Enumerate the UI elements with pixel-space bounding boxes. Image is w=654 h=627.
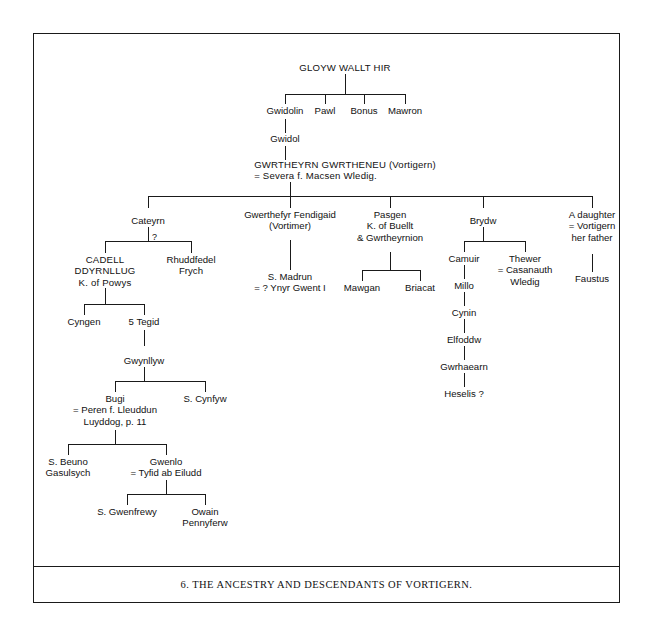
chart-frame (33, 33, 620, 603)
connector-bonus-up (364, 94, 365, 104)
genealogy-chart-page: GLOYW WALLT HIR Gwidolin Pawl Bonus Mawr… (0, 0, 654, 627)
connector-cadell-children-bar (84, 304, 144, 305)
node-rhuddfedel-frych[interactable]: Rhuddfedel Frych (166, 254, 215, 277)
node-5-tegid[interactable]: 5 Tegid (129, 316, 160, 327)
node-bugi[interactable]: Bugi = Peren f. Lleuddun Luyddog, p. 11 (73, 393, 157, 427)
connector-bugi-children-bar (68, 444, 166, 445)
connector-gloyw-children-bar (285, 94, 405, 95)
node-thewer[interactable]: Thewer = Casanauth Wledig (498, 253, 553, 287)
connector-cynfyw-up (205, 381, 206, 392)
connector-gwidolin-up (285, 94, 286, 104)
node-a-daughter[interactable]: A daughter = Vortigern her father (569, 209, 616, 243)
connector-gwidolin-gwidol (285, 119, 286, 133)
node-camuir[interactable]: Camuir (449, 253, 480, 264)
node-pasgen[interactable]: Pasgen K. of Buellt & Gwrtheyrnion (357, 209, 423, 243)
node-s-gwenfrewy[interactable]: S. Gwenfrewy (97, 506, 157, 517)
connector-pasgen-children-bar (362, 270, 420, 271)
node-gwynllyw[interactable]: Gwynllyw (124, 355, 165, 366)
connector-gwenlo-children-bar (127, 494, 205, 495)
connector-cateyrn-down (148, 227, 149, 241)
connector-beuno-up (68, 444, 69, 455)
node-mawgan[interactable]: Mawgan (344, 282, 380, 293)
node-vortigern[interactable]: GWRTHEYRN GWRTHENEU (Vortigern) = Severa… (254, 159, 436, 182)
node-s-beuno-gasulsych[interactable]: S. Beuno Gasulsych (46, 456, 91, 479)
figure-caption: 6. THE ANCESTRY AND DESCENDANTS OF VORTI… (33, 566, 620, 603)
node-cateyrn[interactable]: Cateyrn (131, 215, 165, 226)
connector-brydw-down (483, 227, 484, 241)
node-gloyw-wallt-hir[interactable]: GLOYW WALLT HIR (299, 62, 390, 73)
connector-daughter-faustus (592, 254, 593, 272)
connector-owain-up (205, 494, 206, 505)
node-s-madrun[interactable]: S. Madrun = ? Ynyr Gwent I (254, 271, 326, 294)
connector-pawl-up (325, 94, 326, 104)
connector-rhuddfedel-up (191, 241, 192, 253)
node-s-cynfyw[interactable]: S. Cynfyw (183, 393, 226, 404)
connector-brydw-up (483, 196, 484, 208)
node-heselis[interactable]: Heselis ? (444, 388, 483, 399)
connector-pasgen-up (390, 196, 391, 208)
connector-gwerthefyr-up (290, 196, 291, 208)
connector-cadell-up (105, 241, 106, 253)
node-faustus[interactable]: Faustus (575, 273, 609, 284)
connector-gwerthefyr-madrun (290, 240, 291, 270)
connector-camuir-up (464, 241, 465, 252)
connector-vortigern-children-bar (148, 196, 592, 197)
connector-gwidol-vortigern (285, 146, 286, 160)
node-gwidolin[interactable]: Gwidolin (267, 105, 304, 116)
connector-mawgan-up (362, 270, 363, 281)
node-brydw[interactable]: Brydw (470, 215, 497, 226)
node-millo[interactable]: Millo (454, 280, 474, 291)
node-pawl[interactable]: Pawl (315, 105, 336, 116)
connector-pasgen-down (390, 252, 391, 270)
connector-cateyrn-up (148, 196, 149, 208)
connector-gwynllyw-down (144, 367, 145, 381)
connector-cynin-elfoddw (464, 319, 465, 333)
connector-gwenlo-down (166, 480, 167, 494)
node-gwenlo[interactable]: Gwenlo = Tyfid ab Eiludd (130, 456, 201, 479)
connector-cateyrn-children-bar (105, 241, 191, 242)
connector-cyngen-up (84, 304, 85, 315)
connector-camuir-millo (464, 265, 465, 279)
connector-gloyw-down (345, 74, 346, 94)
node-gwidol[interactable]: Gwidol (270, 133, 299, 144)
node-gwrhaearn[interactable]: Gwrhaearn (440, 361, 487, 372)
connector-cadell-down (105, 288, 106, 304)
node-briacat[interactable]: Briacat (405, 282, 435, 293)
connector-elfoddw-gwrhaearn (464, 346, 465, 360)
connector-tegid-gwynllyw (144, 330, 145, 346)
connector-briacat-up (420, 270, 421, 281)
node-cadell-ddyrnllug[interactable]: CADELL DDYRNLLUG K. of Powys (75, 254, 136, 288)
node-cynin[interactable]: Cynin (452, 307, 477, 318)
node-cateyrn-uncertainty-marker: ? (152, 232, 157, 242)
connector-tegid-up (144, 304, 145, 315)
connector-brydw-children-bar (464, 241, 525, 242)
connector-daughter-up (592, 196, 593, 208)
connector-gwrhaearn-heselis (464, 373, 465, 387)
connector-gwenfrewy-up (127, 494, 128, 505)
node-elfoddw[interactable]: Elfoddw (447, 334, 481, 345)
node-owain-pennyferw[interactable]: Owain Pennyferw (182, 506, 227, 529)
connector-gwynllyw-children-bar (115, 381, 205, 382)
node-cyngen[interactable]: Cyngen (67, 316, 100, 327)
node-mawron[interactable]: Mawron (388, 105, 422, 116)
connector-vortigern-down (290, 182, 291, 196)
connector-gwenlo-up (166, 444, 167, 455)
connector-bugi-down (115, 430, 116, 444)
connector-mawron-up (405, 94, 406, 104)
node-gwerthefyr-fendigaid[interactable]: Gwerthefyr Fendigaid (Vortimer) (244, 209, 336, 232)
connector-thewer-up (525, 241, 526, 252)
node-bonus[interactable]: Bonus (350, 105, 377, 116)
connector-millo-cynin (464, 292, 465, 306)
connector-bugi-up (115, 381, 116, 392)
figure-caption-text: 6. THE ANCESTRY AND DESCENDANTS OF VORTI… (181, 579, 473, 590)
